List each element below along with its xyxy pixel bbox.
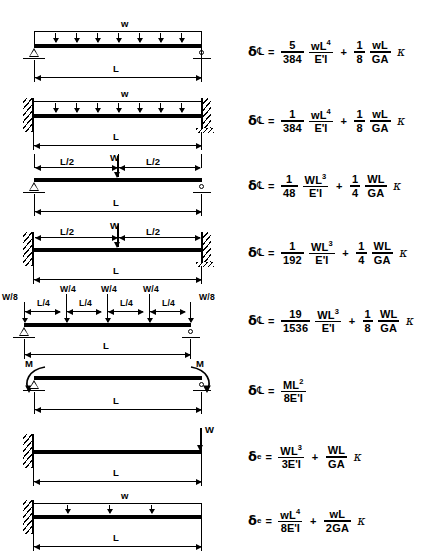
dimension-line — [35, 211, 201, 212]
denominator: GA — [366, 187, 387, 199]
denominator: 192 — [281, 254, 304, 266]
formula-cell-simply-supported-center-point-load: δ℄ = 1 48 WL3 E'I + 1 4 — [236, 152, 445, 220]
delta-subscript: ℄ — [257, 114, 264, 127]
beam-diagram-simply-supported-center-point-load: W L/2 L/2 L — [0, 152, 236, 220]
formula-cell-fixed-fixed-uniform-load: δ℄ = 1 384 wL4 E'I + 1 8 — [236, 88, 445, 154]
pin-support — [29, 380, 39, 389]
numerator: WL — [365, 173, 387, 185]
coefficient-fraction: 1 8 — [363, 308, 373, 334]
beam-member — [34, 44, 202, 48]
dimension-line — [34, 546, 201, 547]
numerator-base: ML — [283, 378, 299, 390]
roller-ground-hatch — [196, 262, 214, 267]
load-arrow — [151, 505, 152, 513]
variable-fraction: WL GA — [365, 173, 387, 199]
load-arrow — [181, 103, 182, 112]
numerator-base: wL — [280, 508, 296, 520]
variable-fraction: WL3 3E'I — [278, 444, 304, 471]
ground-line — [23, 58, 45, 60]
plus-sign: + — [340, 46, 346, 58]
dimension-line — [119, 167, 200, 168]
beam-member — [33, 114, 202, 118]
dimension-label: L — [113, 532, 119, 543]
formula-cell-fixed-fixed-center-point-load: δ℄ = 1 192 WL3 E'I + 1 4 — [236, 218, 445, 288]
beam-diagram-simply-supported-end-moments: M M L — [0, 358, 236, 424]
dimension-line — [108, 311, 143, 312]
numerator: 1 — [287, 108, 297, 120]
dimension-line — [34, 481, 201, 482]
numerator: 1 — [363, 308, 373, 320]
numerator-exponent: 3 — [298, 443, 302, 452]
load-arrow — [139, 33, 140, 42]
delta-subscript: e — [257, 452, 261, 461]
numerator-base: WL — [317, 308, 335, 320]
load-arrow — [139, 103, 140, 112]
numerator: 1 — [354, 108, 364, 120]
pin-support — [29, 48, 39, 57]
dimension-line — [35, 167, 117, 168]
beam-deflection-sheet: w L δ℄ = — [0, 0, 445, 559]
extension-line — [201, 154, 202, 168]
numerator-base: WL — [311, 240, 329, 252]
delta-symbol: δ — [248, 513, 257, 528]
beam-member — [33, 248, 202, 252]
denominator: E'I — [320, 322, 337, 334]
plus-sign: + — [349, 315, 355, 327]
coefficient-fraction: 5 384 — [281, 39, 304, 65]
fixed-support-hatch-left — [23, 500, 32, 534]
roller-support — [199, 382, 204, 387]
formula-cell-simply-supported-end-moments: δ℄ = ML2 8E'I — [236, 358, 445, 424]
point-load-arrow — [190, 302, 191, 322]
denominator: GA — [372, 254, 393, 266]
beam-member — [34, 178, 202, 182]
formula: δ℄ = 1 48 WL3 E'I + 1 4 — [236, 173, 401, 200]
delta-subscript: ℄ — [257, 384, 264, 397]
load-label: W/8 — [2, 292, 18, 302]
denominator: E'I — [313, 254, 330, 266]
ground-line — [23, 390, 45, 392]
ground-line — [13, 337, 35, 339]
denominator: GA — [370, 53, 391, 65]
formula: δ℄ = 1 192 WL3 E'I + 1 4 — [236, 240, 407, 267]
numerator-base: wL — [311, 108, 327, 120]
numerator: wL4 — [309, 39, 333, 52]
kappa-symbol: κ — [406, 314, 414, 328]
dimension-label: L/4 — [79, 298, 92, 308]
load-arrow — [118, 103, 119, 112]
numerator-base: wL — [311, 39, 327, 51]
numerator: ML2 — [281, 378, 306, 391]
diagram-row-simply-supported-uniform-load: w L δ℄ = — [0, 18, 445, 86]
formula-cell-simply-supported-uniform-load: δ℄ = 5 384 wL4 E'I + 1 8 — [236, 18, 445, 86]
load-arrow — [160, 33, 161, 42]
numerator: 1 — [354, 39, 364, 51]
load-label: w — [121, 88, 129, 99]
load-label: W/4 — [60, 284, 76, 294]
point-load-arrow — [117, 156, 119, 177]
numerator: 1 — [284, 173, 294, 185]
denominator: 4 — [350, 187, 360, 199]
delta-subscript: ℄ — [257, 179, 264, 192]
dimension-line — [25, 311, 60, 312]
load-label: w — [121, 490, 129, 501]
delta-symbol: δ — [248, 178, 257, 193]
dimension-label: L — [113, 63, 119, 74]
denominator: GA — [378, 322, 399, 334]
variable-fraction: wL 2GA — [324, 508, 351, 534]
numerator-exponent: 3 — [322, 172, 326, 181]
dimension-label: L/2 — [60, 226, 74, 237]
beam-diagram-fixed-fixed-uniform-load: w L — [0, 88, 236, 154]
kappa-symbol: κ — [397, 45, 405, 59]
numerator: wL — [370, 39, 390, 51]
ground-line — [23, 192, 45, 194]
dimension-label: L — [103, 340, 109, 351]
dimension-label: L/2 — [146, 226, 160, 237]
formula-cell-cantilever-end-point-load: δe = WL3 3E'I + WL GA κ — [236, 424, 445, 490]
diagram-row-cantilever-end-point-load: W L δe = WL3 3E'I + WL — [0, 424, 445, 490]
beam-member — [33, 515, 202, 519]
dimension-line — [35, 237, 117, 238]
coefficient-fraction: 1 4 — [356, 240, 366, 266]
formula: δ℄ = 1 384 wL4 E'I + 1 8 — [236, 108, 405, 135]
plus-sign: + — [342, 247, 348, 259]
coefficient-fraction: 1 4 — [350, 173, 360, 199]
load-arrow — [76, 103, 77, 112]
